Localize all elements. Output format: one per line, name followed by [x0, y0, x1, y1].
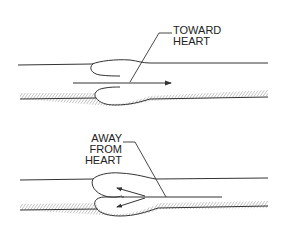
label-away-line-1: AWAY FROM	[58, 133, 122, 155]
lower-valve-cusp-closed	[95, 197, 124, 209]
backflow-arrow-upper	[117, 188, 145, 196]
label-toward-heart: TOWARD HEART	[173, 25, 221, 47]
backflow-arrow-lower	[117, 198, 145, 207]
leader-line-away	[123, 142, 166, 197]
leader-line-toward	[130, 33, 172, 82]
lower-wall-hatching-2	[20, 201, 268, 216]
label-toward-line-2: HEART	[173, 36, 221, 47]
diagram-canvas	[0, 0, 281, 245]
upper-valve-cusp	[91, 64, 120, 76]
label-away-line-2: HEART	[58, 155, 122, 166]
vein-valve-diagram: TOWARD HEART AWAY FROM HEART	[0, 0, 281, 245]
label-away-from-heart: AWAY FROM HEART	[58, 133, 122, 166]
lower-valve-cusp	[95, 87, 120, 98]
panel-toward-heart	[18, 33, 268, 106]
upper-vein-wall-2	[20, 173, 268, 180]
